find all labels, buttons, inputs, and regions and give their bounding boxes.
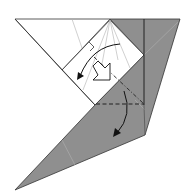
origami-diagram bbox=[0, 0, 195, 193]
